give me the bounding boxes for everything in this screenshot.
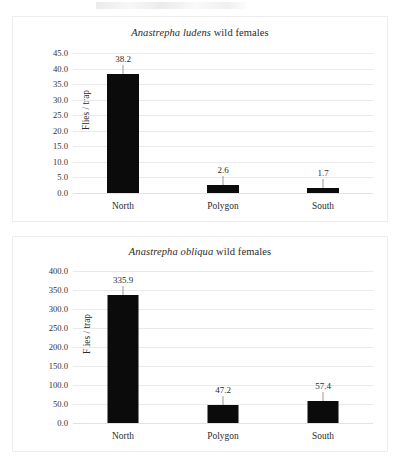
bar-series: 335.9North47.2Polygon57.4South	[73, 271, 373, 423]
x-axis-category-label: Polygon	[207, 431, 238, 442]
bar-value-label: 57.4	[315, 381, 331, 391]
bar-group: 47.2Polygon	[173, 271, 273, 423]
bar-group: 1.7South	[273, 53, 373, 193]
chart-title: Anastrepha ludens wild females	[13, 27, 387, 39]
bar	[307, 188, 339, 193]
y-axis-tick-label: 20.0	[53, 126, 68, 135]
data-label-leader-line	[123, 65, 124, 74]
chart-title-species: Anastrepha ludens	[131, 27, 211, 38]
x-axis-category-label: South	[312, 431, 334, 442]
y-axis-tick-label: 400.0	[49, 267, 68, 276]
bar	[208, 405, 239, 423]
data-label-leader-line	[323, 392, 324, 401]
y-axis-tick-label: 0.0	[57, 419, 68, 428]
bar-value-label: 2.6	[217, 165, 228, 175]
data-label-leader-line	[223, 176, 224, 185]
y-axis-tick-label: 5.0	[57, 173, 68, 182]
figure-page: Anastrepha ludens wild females Flies / t…	[0, 0, 400, 468]
y-axis-tick-label: 250.0	[49, 324, 68, 333]
y-axis-tick-label: 10.0	[53, 157, 68, 166]
bar	[107, 74, 139, 193]
y-axis-tick-label: 0.0	[57, 189, 68, 198]
bar	[308, 401, 339, 423]
data-label-leader-line	[223, 396, 224, 405]
bar	[108, 295, 139, 423]
bar-group: 38.2North	[73, 53, 173, 193]
bar-value-label: 1.7	[317, 168, 328, 178]
x-axis-category-label: Polygon	[207, 201, 238, 212]
y-axis-tick-label: 200.0	[49, 343, 68, 352]
bar-group: 57.4South	[273, 271, 373, 423]
bar-group: 335.9North	[73, 271, 173, 423]
chart-panel-anastrepha-obliqua: Anastrepha obliqua wild females Flies / …	[12, 236, 388, 452]
bar-value-label: 47.2	[215, 385, 231, 395]
data-label-leader-line	[123, 286, 124, 295]
bar-group: 2.6Polygon	[173, 53, 273, 193]
chart-panel-anastrepha-ludens: Anastrepha ludens wild females Flies / t…	[12, 16, 388, 222]
bar	[207, 185, 239, 193]
data-label-leader-line	[323, 179, 324, 188]
y-axis-tick-label: 50.0	[53, 400, 68, 409]
bar-value-label: 38.2	[115, 54, 131, 64]
y-axis-tick-label: 100.0	[49, 381, 68, 390]
scan-artifact	[96, 2, 246, 9]
bar-value-label: 335.9	[113, 275, 133, 285]
chart-title-suffix: wild females	[211, 27, 269, 38]
gridline	[73, 193, 373, 194]
chart-title-species: Anastrepha obliqua	[129, 246, 214, 257]
chart-title: Anastrepha obliqua wild females	[13, 246, 387, 258]
y-axis-tick-label: 40.0	[53, 64, 68, 73]
plot-area: Flies / trap 400.0350.0300.0250.0200.015…	[73, 271, 373, 423]
plot-area: Flies / trap 45.040.035.030.025.020.015.…	[73, 53, 373, 193]
y-axis-tick-label: 35.0	[53, 80, 68, 89]
y-axis-tick-label: 300.0	[49, 305, 68, 314]
chart-title-suffix: wild females	[213, 246, 271, 257]
x-axis-category-label: North	[112, 431, 134, 442]
y-axis-tick-label: 150.0	[49, 362, 68, 371]
y-axis-tick-label: 25.0	[53, 111, 68, 120]
bar-series: 38.2North2.6Polygon1.7South	[73, 53, 373, 193]
y-axis-tick-label: 45.0	[53, 49, 68, 58]
y-axis-tick-label: 350.0	[49, 286, 68, 295]
x-axis-category-label: South	[312, 201, 334, 212]
y-axis-tick-label: 15.0	[53, 142, 68, 151]
y-axis-tick-label: 30.0	[53, 95, 68, 104]
x-axis-category-label: North	[112, 201, 134, 212]
gridline	[73, 423, 373, 424]
